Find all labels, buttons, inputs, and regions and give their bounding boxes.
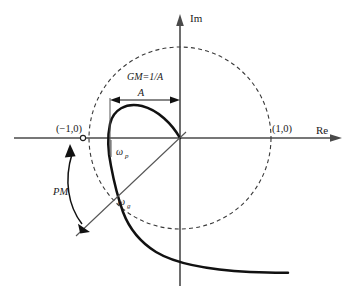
gain-margin-label: GM=1/A bbox=[127, 71, 164, 82]
nyquist-figure: Im Re (−1,0) (1,0) GM=1/A A PM ω p ω g bbox=[0, 0, 352, 289]
omega-p-symbol: ω bbox=[116, 146, 123, 157]
amplitude-arrow-left bbox=[110, 97, 120, 104]
phase-margin-arc-path bbox=[68, 154, 82, 224]
omega-g-subscript: g bbox=[127, 202, 131, 210]
critical-point-label: (−1,0) bbox=[56, 123, 83, 135]
imaginary-axis-arrowhead bbox=[176, 14, 184, 26]
amplitude-arrow-right bbox=[170, 97, 180, 104]
omega-g-symbol: ω bbox=[118, 196, 125, 207]
phase-margin-arc bbox=[65, 144, 90, 234]
nyquist-response-curve bbox=[108, 105, 288, 273]
omega-g-label: ω g bbox=[118, 196, 131, 210]
omega-p-label: ω p bbox=[116, 146, 129, 160]
imaginary-axis-label: Im bbox=[190, 12, 203, 24]
critical-point-marker bbox=[80, 135, 85, 140]
real-axis-label: Re bbox=[316, 124, 328, 136]
reference-point-label: (1,0) bbox=[272, 123, 293, 135]
phase-margin-label: PM bbox=[52, 186, 69, 197]
amplitude-label: A bbox=[137, 87, 145, 98]
phase-margin-ray bbox=[76, 132, 186, 236]
phase-margin-arrow-up bbox=[65, 144, 76, 158]
nyquist-plot-canvas: Im Re (−1,0) (1,0) GM=1/A A PM ω p ω g bbox=[0, 0, 352, 289]
imaginary-axis bbox=[176, 14, 184, 286]
omega-p-subscript: p bbox=[124, 152, 129, 160]
real-axis-arrowhead bbox=[330, 134, 342, 142]
